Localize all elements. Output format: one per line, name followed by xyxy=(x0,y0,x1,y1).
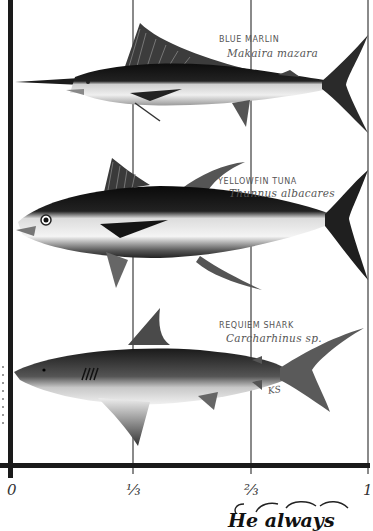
cropped-side-text xyxy=(1,360,5,435)
tick-label-1: 1 xyxy=(363,481,373,499)
blue-marlin-illustration xyxy=(0,15,370,135)
caption-text: He always xyxy=(228,509,335,531)
yellowfin-tuna-scientific-name: Thunnus albacares xyxy=(229,188,335,199)
yellowfin-tuna-illustration xyxy=(0,152,370,292)
blue-marlin-common-name: BLUE MARLIN xyxy=(219,36,279,44)
requiem-shark-common-name: REQUIEM SHARK xyxy=(219,322,294,330)
blue-marlin-scientific-name: Makaira mazara xyxy=(227,48,318,59)
yellowfin-tuna-common-name: YELLOWFIN TUNA xyxy=(218,178,297,186)
requiem-shark-illustration xyxy=(0,300,370,455)
requiem-shark-scientific-name: Carcharhinus sp. xyxy=(226,333,322,344)
horizontal-axis xyxy=(0,463,370,468)
tick-label-two-thirds: ⅔ xyxy=(244,481,259,499)
tick-label-0: 0 xyxy=(7,481,17,499)
vertical-axis xyxy=(8,0,13,478)
tick-label-one-third: ⅓ xyxy=(126,481,141,499)
